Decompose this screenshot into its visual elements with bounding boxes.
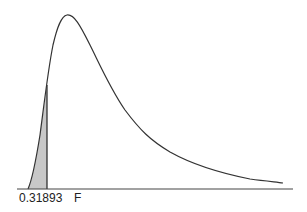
axis-variable-label: F	[74, 192, 81, 204]
density-curve	[28, 15, 283, 189]
critical-value-label: 0.31893	[19, 192, 62, 204]
f-distribution-plot	[0, 0, 307, 212]
